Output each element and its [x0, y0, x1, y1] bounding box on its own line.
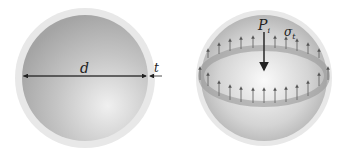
left-sphere: d t	[15, 8, 162, 148]
inner-sphere	[22, 15, 148, 141]
thickness-label: t	[154, 61, 159, 75]
diameter-label: d	[80, 60, 89, 76]
pressure-vessel-diagram: d t	[0, 0, 346, 154]
right-sphere: Pi σt	[196, 10, 332, 146]
